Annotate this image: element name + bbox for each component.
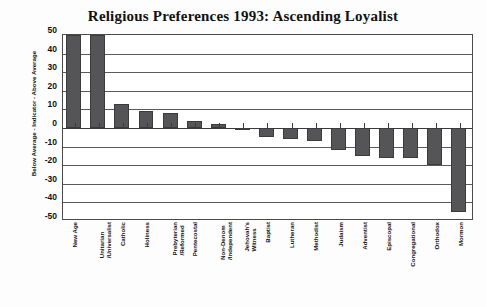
x-category-label: Unitarian/Universalist	[98, 222, 112, 258]
x-category-label-line: Adventist	[361, 222, 368, 250]
bar-slot[interactable]	[280, 35, 304, 219]
bar[interactable]	[403, 128, 418, 158]
x-tick-mark	[316, 123, 317, 128]
x-category-label-line: Pentecostal	[191, 222, 198, 256]
bar-slot[interactable]	[63, 35, 87, 219]
x-category-label: Mormon	[457, 222, 464, 246]
x-category-label-line: Lutheran	[288, 222, 295, 248]
x-category-label-line: Mormon	[457, 222, 464, 246]
bar[interactable]	[163, 113, 178, 128]
bar[interactable]	[90, 35, 105, 128]
x-category-label: Pentecostal	[191, 222, 198, 256]
x-category-label: Judaism	[337, 222, 344, 247]
x-tick-mark	[267, 123, 268, 128]
bar-slot[interactable]	[352, 35, 376, 219]
bar-slot[interactable]	[255, 35, 279, 219]
x-category-label-line: /Independent	[226, 222, 233, 260]
bar[interactable]	[355, 128, 370, 156]
x-category-label: Jehovah'sWitness	[243, 222, 257, 252]
x-tick-mark	[195, 123, 196, 128]
y-tick-label: 30	[48, 62, 57, 72]
x-category-label: Episcopal	[385, 222, 392, 251]
x-category-label: New Age	[71, 222, 78, 248]
y-tick-label: 0	[52, 118, 57, 128]
y-tick-label: 10	[48, 99, 57, 109]
bar-slot[interactable]	[207, 35, 231, 219]
x-tick-mark	[388, 123, 389, 128]
bar-series	[63, 35, 472, 219]
x-category-label: Congregational	[409, 222, 416, 267]
chart-title: Religious Preferences 1993: Ascending Lo…	[0, 8, 486, 25]
x-category-label-line: /Reformed	[178, 222, 185, 256]
plot-area	[62, 34, 473, 220]
x-category-label-line: Catholic	[119, 222, 126, 246]
bar[interactable]	[259, 128, 274, 137]
x-tick-mark	[412, 123, 413, 128]
x-tick-mark	[171, 123, 172, 128]
bar[interactable]	[211, 124, 226, 128]
x-tick-mark	[75, 123, 76, 128]
bar-slot[interactable]	[231, 35, 255, 219]
bar[interactable]	[283, 128, 298, 139]
x-category-label-line: Methodist	[312, 222, 319, 251]
x-category-label-line: Congregational	[409, 222, 416, 267]
bar[interactable]	[427, 128, 442, 165]
x-tick-mark	[292, 123, 293, 128]
x-category-label-line: Episcopal	[385, 222, 392, 251]
x-category-label-line: Witness	[250, 222, 257, 252]
y-tick-label: -50	[45, 211, 57, 221]
bar-slot[interactable]	[135, 35, 159, 219]
bar[interactable]	[307, 128, 322, 141]
y-tick-label: -10	[45, 137, 57, 147]
x-category-label: Prebyterian/Reformed	[171, 222, 185, 256]
x-category-label-line: /Universalist	[105, 222, 112, 258]
x-category-label: Lutheran	[288, 222, 295, 248]
x-category-label: Methodist	[312, 222, 319, 251]
bar-slot[interactable]	[376, 35, 400, 219]
x-category-label: Baptist	[264, 222, 271, 243]
y-tick-label: 20	[48, 81, 57, 91]
x-category-label-line: Orthodox	[433, 222, 440, 249]
bar-slot[interactable]	[87, 35, 111, 219]
bar-slot[interactable]	[111, 35, 135, 219]
y-tick-label: 40	[48, 44, 57, 54]
bar-slot[interactable]	[424, 35, 448, 219]
x-tick-mark	[364, 123, 365, 128]
x-tick-mark	[436, 123, 437, 128]
x-tick-mark	[219, 123, 220, 128]
bar[interactable]	[187, 121, 202, 128]
bar[interactable]	[379, 128, 394, 158]
y-tick-label: -20	[45, 155, 57, 165]
bar[interactable]	[451, 128, 466, 212]
bar[interactable]	[331, 128, 346, 150]
bar-slot[interactable]	[159, 35, 183, 219]
y-tick-label: -40	[45, 192, 57, 202]
x-tick-mark	[243, 123, 244, 128]
x-category-label: Holiness	[143, 222, 150, 247]
x-category-label: Orthodox	[433, 222, 440, 249]
y-tick-label: -30	[45, 174, 57, 184]
y-tick-label: 50	[48, 25, 57, 35]
x-category-label: Adventist	[361, 222, 368, 250]
bar-slot[interactable]	[328, 35, 352, 219]
x-tick-mark	[460, 123, 461, 128]
x-category-label-line: Baptist	[264, 222, 271, 243]
bar-slot[interactable]	[183, 35, 207, 219]
x-category-label: Non-Denom/Independent	[219, 222, 233, 260]
bar[interactable]	[139, 111, 154, 128]
bar-slot[interactable]	[304, 35, 328, 219]
x-category-label-line: Prebyterian	[171, 222, 178, 256]
bar[interactable]	[235, 128, 250, 130]
x-tick-mark	[340, 123, 341, 128]
chart-figure: Religious Preferences 1993: Ascending Lo…	[0, 0, 486, 307]
bar-slot[interactable]	[400, 35, 424, 219]
x-category-label-line: Holiness	[143, 222, 150, 247]
x-category-label: Catholic	[119, 222, 126, 246]
x-category-label-line: Judaism	[337, 222, 344, 247]
x-tick-mark	[147, 123, 148, 128]
y-axis-tick-labels: 50403020100-10-20-30-40-50	[34, 30, 60, 220]
bar-slot[interactable]	[448, 35, 472, 219]
bar[interactable]	[66, 35, 81, 128]
x-tick-mark	[99, 123, 100, 128]
bar[interactable]	[114, 104, 129, 128]
